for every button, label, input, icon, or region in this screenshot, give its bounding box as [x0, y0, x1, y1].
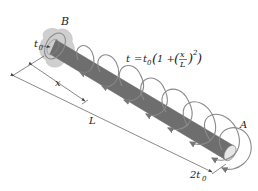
label-L: L — [88, 115, 96, 126]
label-2t0: 2t 0 — [189, 169, 207, 183]
svg-text:0: 0 — [202, 175, 207, 183]
svg-text:1 +: 1 + — [157, 53, 175, 64]
svg-text:L: L — [179, 60, 185, 69]
label-B: B — [60, 15, 69, 28]
shaft-diagram: B t 0 x L A 2t 0 t = t 0 ( 1 + ( x L ) 2… — [0, 0, 258, 191]
label-A: A — [239, 119, 247, 130]
svg-text:): ) — [196, 51, 202, 66]
svg-text:0: 0 — [39, 44, 44, 52]
svg-text:2t: 2t — [189, 169, 201, 180]
label-x: x — [55, 77, 61, 88]
svg-text:=: = — [134, 53, 142, 64]
torque-equation: t = t 0 ( 1 + ( x L ) 2 ) — [126, 49, 202, 69]
svg-text:x: x — [180, 50, 185, 59]
svg-text:t: t — [126, 53, 131, 64]
